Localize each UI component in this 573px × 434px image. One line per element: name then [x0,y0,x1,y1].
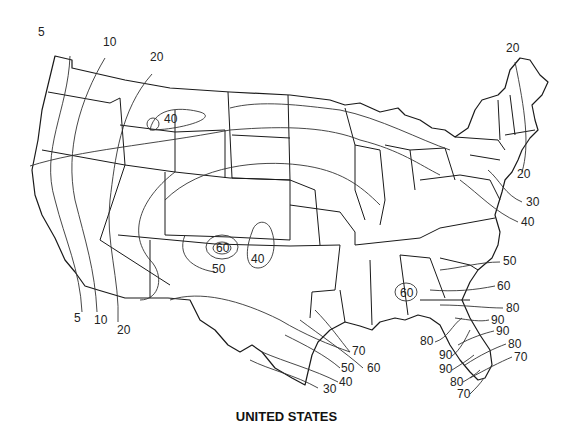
isoline-plains [165,163,380,205]
isoline-40-montana-small [147,118,159,130]
label-10-bottom: 10 [94,313,108,327]
label-40-montana: 40 [164,112,178,126]
isoline-se-60 [430,286,495,291]
isoline-texas-outer [170,296,350,352]
label-5-top: 5 [38,25,45,39]
label-20-top: 20 [150,50,164,64]
isoline-se-80a [440,305,503,308]
label-80-east-a: 80 [506,301,520,315]
isoline-5 [51,56,82,312]
isoline-north [230,104,450,150]
isoline-20 [109,74,152,322]
label-30-texas: 30 [323,382,337,396]
label-40-texas: 40 [339,375,353,389]
label-60-texas: 60 [367,361,381,375]
label-20-newengland: 20 [517,167,531,181]
label-50-colorado: 50 [212,262,226,276]
label-70-east: 70 [514,350,528,364]
isoline-fl-80c [435,318,462,342]
label-30-midatlantic: 30 [526,195,540,209]
label-90-east-b: 90 [496,324,510,338]
isoline-fl-90d [452,355,474,370]
label-40-oklahoma: 40 [251,252,265,266]
isoline-fl-70b [470,378,484,394]
label-90-west-b: 90 [439,362,453,376]
label-20-maine: 20 [506,41,520,55]
label-5-bottom: 5 [74,311,81,325]
label-60-georgia: 60 [497,279,511,293]
label-50-texas: 50 [341,361,355,375]
isoline-se-80b [465,344,506,365]
isoline-ne-40 [460,180,518,222]
label-70-texas: 70 [352,344,366,358]
label-60-colorado: 60 [216,241,230,255]
label-90-west-a: 90 [439,348,453,362]
isoline-labels: 5 10 20 40 5 10 20 60 50 40 70 50 60 40 … [38,25,540,401]
label-60-alabama: 60 [400,286,414,300]
isoline-se-50 [440,262,500,270]
isolines [30,56,526,394]
label-80-west-a: 80 [420,334,434,348]
label-20-bottom: 20 [117,323,131,337]
label-70-west: 70 [457,387,471,401]
isoline-ne-20 [515,62,526,172]
isoline-50-west [183,235,215,272]
label-40-virginia: 40 [521,215,535,229]
us-isoline-map: 5 10 20 40 5 10 20 60 50 40 70 50 60 40 … [0,0,573,434]
label-10-top: 10 [103,35,117,49]
label-50-carolina: 50 [503,254,517,268]
isoline-texas-40 [262,352,338,382]
map-caption: UNITED STATES [0,409,573,424]
isoline-30-west [139,172,175,300]
isoline-texas-50 [285,335,340,368]
label-80-east-b: 80 [508,337,522,351]
